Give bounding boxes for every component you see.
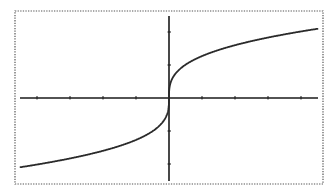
graph-canvas bbox=[0, 0, 335, 195]
